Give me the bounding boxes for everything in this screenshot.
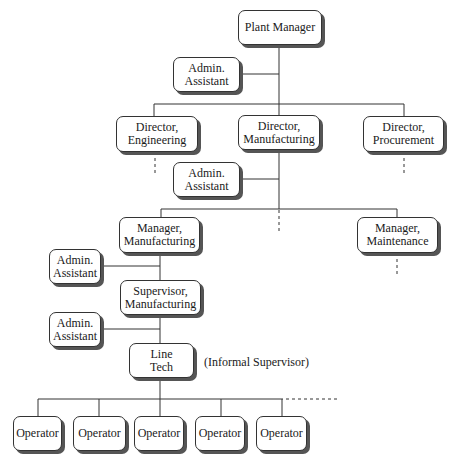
node-label: Operator [78,427,121,440]
node-supervisor-manufacturing: Supervisor, Manufacturing [120,280,201,315]
node-label: Operator [199,427,242,440]
node-label: Supervisor, [133,285,188,298]
node-director-engineering: Director, Engineering [116,116,198,152]
node-label: Tech [150,361,173,374]
node-admin-assistant-2: Admin. Assistant [173,162,240,197]
node-label: Assistant [184,75,228,88]
node-operator-4: Operator [195,416,245,451]
node-label: Procurement [373,134,434,147]
node-manager-maintenance: Manager, Maintenance [357,217,438,253]
node-label: Manufacturing [124,235,195,248]
node-operator-1: Operator [13,416,62,451]
node-operator-2: Operator [73,416,126,451]
node-label: Director, [258,120,301,133]
node-label: Operator [138,427,181,440]
node-label: Admin. [188,62,224,75]
node-admin-assistant-3: Admin. Assistant [49,249,101,284]
node-label: Plant Manager [245,21,315,34]
node-label: Maintenance [367,235,429,248]
node-director-procurement: Director, Procurement [363,116,444,152]
node-admin-assistant-1: Admin. Assistant [173,57,240,92]
node-label: Admin. [188,167,224,180]
node-label: Admin. [57,254,93,267]
node-manager-manufacturing: Manager, Manufacturing [119,217,200,253]
node-label: Operator [260,427,303,440]
node-label: Assistant [53,330,97,343]
node-director-manufacturing: Director, Manufacturing [238,115,320,150]
node-operator-5: Operator [256,416,307,451]
node-plant-manager: Plant Manager [238,10,322,45]
node-admin-assistant-4: Admin. Assistant [49,312,101,347]
node-label: Admin. [57,317,93,330]
node-label: Manufacturing [243,133,314,146]
node-label: Assistant [53,267,97,280]
node-line-tech: Line Tech [129,343,194,378]
informal-supervisor-annotation: (Informal Supervisor) [204,355,309,370]
node-label: Operator [16,427,59,440]
node-label: Engineering [128,134,187,147]
node-label: Assistant [184,180,228,193]
node-operator-3: Operator [134,416,184,451]
node-label: Manufacturing [125,298,196,311]
node-label: Line [151,348,173,361]
